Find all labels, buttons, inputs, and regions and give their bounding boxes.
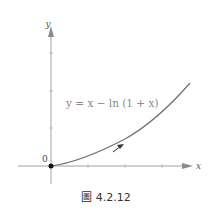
x-axis-arrow-icon bbox=[182, 163, 193, 169]
x-axis-label: x bbox=[196, 161, 201, 171]
origin-label: 0 bbox=[42, 154, 48, 164]
figure-caption: 圖 4.2.12 bbox=[0, 188, 212, 204]
equation-label: y = x − ln (1 + x) bbox=[65, 97, 159, 109]
figure-plot: y x 0 y = x − ln (1 + x) bbox=[0, 0, 212, 214]
y-axis-label: y bbox=[44, 19, 51, 29]
origin-point bbox=[49, 164, 54, 169]
curve-y-equals-x-minus-ln-1-plus-x bbox=[51, 83, 190, 166]
